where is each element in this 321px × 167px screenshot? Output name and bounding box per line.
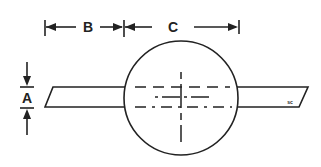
- dim-b-right-arrow-icon: [113, 23, 123, 31]
- dim-c-right-arrow-icon: [228, 23, 238, 31]
- right-bar: [237, 87, 308, 107]
- corner-mark: sc: [287, 99, 293, 105]
- dim-b-label: B: [83, 19, 93, 35]
- left-bar: [45, 87, 125, 107]
- dim-b-left-arrow-icon: [46, 23, 56, 31]
- diagram-canvas: B C A sc: [0, 0, 321, 167]
- dim-a-up-arrow-icon: [23, 109, 31, 119]
- dim-c-left-arrow-icon: [125, 23, 135, 31]
- dim-a-down-arrow-icon: [23, 76, 31, 86]
- dim-c-label: C: [168, 19, 178, 35]
- dim-a-label: A: [22, 90, 32, 106]
- technical-drawing: B C A sc: [0, 0, 321, 167]
